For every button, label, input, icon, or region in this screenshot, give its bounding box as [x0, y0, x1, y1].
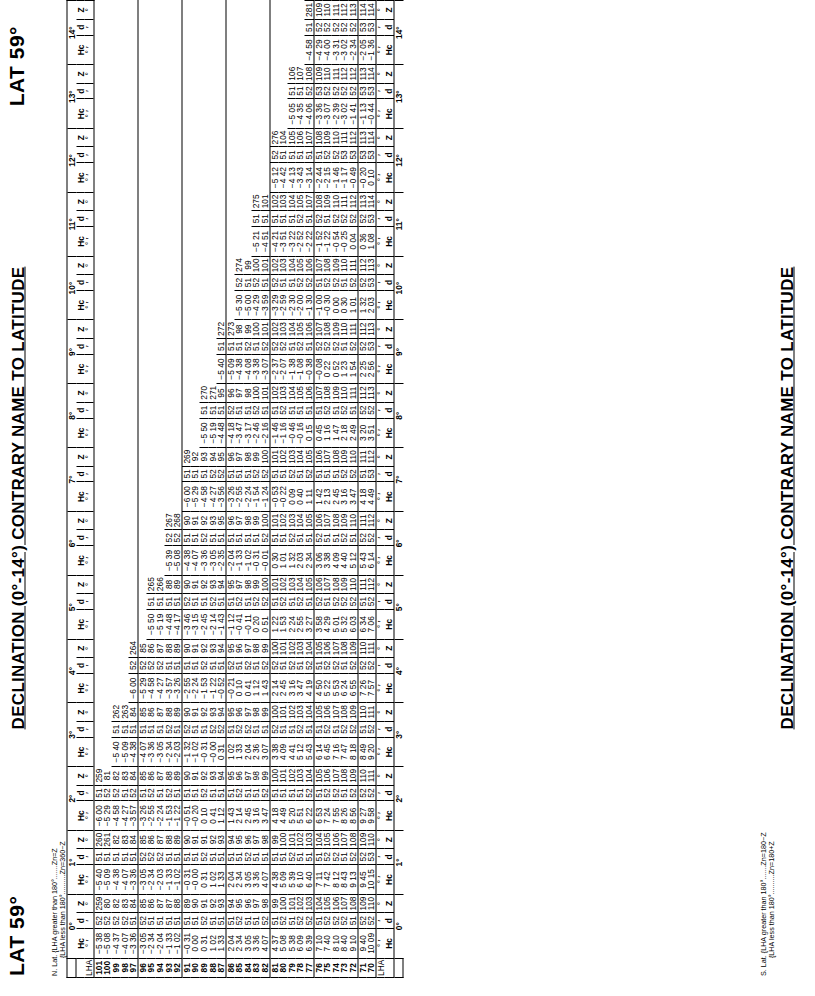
hc-77-9°: −0 38: [304, 354, 313, 384]
empty-cell-99-14°: [111, 1, 120, 65]
d-77-5°: 51: [304, 594, 313, 610]
hc-72-8°: 2 49: [348, 418, 357, 448]
unit-1°-Hc: ° ′: [84, 865, 93, 895]
d-72-8°: 51: [348, 402, 357, 418]
empty-cell-90-14°: [190, 1, 199, 65]
z-82-9°: 101: [260, 320, 269, 338]
unit-14°-Z: °: [84, 1, 93, 20]
declination-header-12: 12°: [67, 129, 76, 193]
hc-89-4°: −1 53: [199, 673, 208, 703]
unit-7°-Z: °: [84, 448, 93, 466]
declination-header-4: 4°: [393, 639, 402, 703]
d-77-13°: 52: [304, 83, 313, 99]
d-99-3°: 51: [111, 721, 120, 737]
empty-cell-93-11°: [164, 192, 173, 256]
empty-cell-100-9°: [102, 320, 111, 384]
hc-94-3°: −3 05: [155, 737, 164, 767]
d-89-7°: 51: [199, 466, 208, 482]
unit-2°-Z: °: [84, 767, 93, 785]
subheader-8°-d: d: [384, 402, 393, 418]
z-99-2°: 82: [111, 767, 120, 785]
z-89-6°: 92: [199, 511, 208, 529]
empty-cell-91-14°: [181, 1, 190, 65]
hc-70-2°: 9 58: [366, 801, 375, 831]
subheader-6°-d: d: [384, 530, 393, 546]
z-97-3°: 84: [128, 703, 137, 721]
empty-cell-99-13°: [111, 65, 120, 129]
d-82-0°: 52: [260, 913, 269, 929]
empty-cell-92-8°: [172, 384, 181, 448]
empty-cell-96-13°: [137, 65, 146, 129]
d-70-12°: 53: [366, 147, 375, 163]
d-77-7°: 52: [304, 466, 313, 482]
south-latitude-zn-note: S. Lat. {LHA greater than 180°.......Zn=…: [759, 832, 775, 976]
empty-cell-92-14°: [172, 1, 181, 65]
d-72-11°: 52: [348, 211, 357, 227]
hc-87-1°: 1 33: [216, 865, 225, 895]
subheader-2°-d: d: [384, 785, 393, 801]
z-97-4°: 264: [128, 639, 137, 657]
hc-72-5°: 6 03: [348, 610, 357, 640]
unit-2°-d: ′: [84, 785, 93, 801]
empty-cell-101-11°: [93, 192, 102, 256]
empty-cell-89-9°: [199, 320, 208, 384]
hc-82-0°: 4 07: [260, 929, 269, 959]
subheader-3°-Z: Z: [384, 703, 393, 721]
d-94-0°: 51: [155, 913, 164, 929]
z-72-11°: 112: [348, 192, 357, 210]
d-92-6°: 52: [172, 530, 181, 546]
empty-cell-100-6°: [102, 511, 111, 575]
declination-header-5: 5°: [67, 575, 76, 639]
sight-reduction-table-page: LAT 59° LAT 59° DECLINATION (0°-14°) CON…: [0, 0, 815, 996]
declination-header-3: 3°: [67, 703, 76, 767]
subheader-3°-Hc: Hc: [384, 737, 393, 767]
empty-cell-85-12°: [234, 129, 243, 193]
d-70-5°: 52: [366, 594, 375, 610]
empty-cell-93-9°: [164, 320, 173, 384]
hc-72-9°: 1 54: [348, 354, 357, 384]
z-87-0°: 93: [216, 894, 225, 912]
hc-82-1°: 4 07: [260, 865, 269, 895]
subheader-3°-d: d: [384, 721, 393, 737]
z-70-10°: 113: [366, 256, 375, 274]
lha-value-97: 97: [128, 958, 137, 977]
unit-7°-Hc: ° ′: [84, 482, 93, 512]
d-77-6°: 51: [304, 530, 313, 546]
empty-cell-97-14°: [128, 1, 137, 65]
unit-11°-Z: °: [84, 192, 93, 210]
hc-70-1°: 10 15: [366, 865, 375, 895]
lha-column-header: LHA: [375, 958, 384, 977]
table-row: 92−1 025188−1 025189−1 225189−2 035189−3…: [172, 1, 181, 978]
d-92-2°: 51: [172, 785, 181, 801]
z-82-1°: 98: [260, 830, 269, 848]
d-89-8°: 51: [199, 402, 208, 418]
subheader-1°-Hc: Hc: [384, 865, 393, 895]
declination-header-10: 10°: [393, 256, 402, 320]
hc-d-z-header-row: HcdZHcdZHcdZHcdZHcdZHcdZHcdZHcdZHcdZHcdZ…: [76, 1, 85, 978]
empty-cell-91-10°: [181, 256, 190, 320]
z-92-4°: 89: [172, 639, 181, 657]
empty-cell-96-10°: [137, 256, 146, 320]
declination-header-0: 0°: [67, 894, 76, 958]
empty-cell-100-14°: [102, 1, 111, 65]
hc-77-4°: 4 19: [304, 673, 313, 703]
declination-header-1: 1°: [393, 830, 402, 894]
empty-cell-90-9°: [190, 320, 199, 384]
hc-97-0°: −3 36: [128, 929, 137, 959]
subheader-14°-Z: Z: [384, 1, 393, 20]
subheader-5°-Hc: Hc: [384, 610, 393, 640]
z-87-9°: 272: [216, 320, 225, 338]
hc-82-4°: 1 43: [260, 673, 269, 703]
z-77-8°: 106: [304, 384, 313, 402]
hc-70-7°: 4 49: [366, 482, 375, 512]
z-99-1°: 82: [111, 830, 120, 848]
unit-12°-Hc: ° ′: [84, 163, 93, 193]
z-70-12°: 114: [366, 129, 375, 147]
z-72-8°: 111: [348, 384, 357, 402]
empty-cell-99-4°: [111, 639, 120, 703]
empty-cell-99-6°: [111, 511, 120, 575]
d-70-1°: 53: [366, 849, 375, 865]
empty-cell-96-8°: [137, 384, 146, 448]
empty-cell-80-14°: [278, 1, 287, 65]
declination-header-6: 6°: [393, 511, 402, 575]
